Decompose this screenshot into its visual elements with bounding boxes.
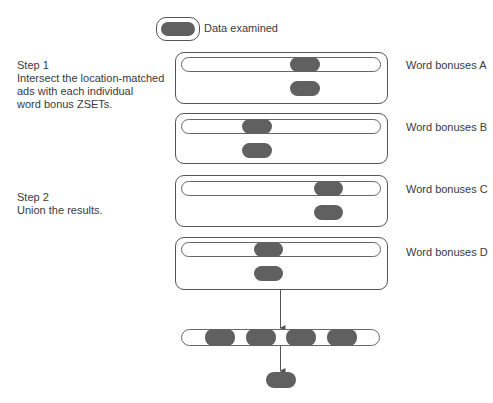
data-pill-icon [327, 329, 357, 346]
data-pill-icon [205, 329, 235, 346]
result-pill-icon [266, 372, 296, 388]
data-pill-icon [286, 329, 316, 346]
data-pill-icon [246, 329, 276, 346]
